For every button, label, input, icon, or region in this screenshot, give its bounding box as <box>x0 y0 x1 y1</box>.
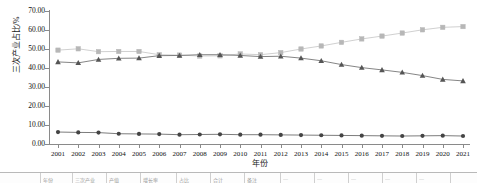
data-point-marker <box>177 133 181 137</box>
strip-cell: 三次产业 <box>75 176 104 183</box>
strip-column-divider <box>40 173 41 183</box>
data-point-marker <box>137 132 141 136</box>
strip-cell: 合计 <box>213 176 242 183</box>
strip-cell: — <box>317 176 346 181</box>
strip-cell: — <box>385 176 414 181</box>
data-point-marker <box>279 133 283 137</box>
strip-cell: 年份 <box>43 176 70 183</box>
strip-column-divider <box>176 173 177 183</box>
data-point-marker <box>117 49 121 53</box>
strip-column-divider <box>72 173 73 183</box>
data-point-marker <box>218 132 222 136</box>
data-point-marker <box>319 44 323 48</box>
strip-column-divider <box>280 173 281 183</box>
data-point-marker <box>360 37 364 41</box>
strip-cell: 产值 <box>109 176 138 183</box>
data-point-marker <box>117 132 121 136</box>
data-point-marker <box>76 130 80 134</box>
strip-column-divider <box>348 173 349 183</box>
data-point-marker <box>137 49 141 53</box>
series-circle <box>56 130 465 138</box>
plot-series-layer <box>0 0 477 183</box>
series-square <box>56 24 465 58</box>
data-point-marker <box>461 24 465 28</box>
data-point-marker <box>96 131 100 135</box>
strip-column-divider <box>382 173 383 183</box>
strip-column-divider <box>106 173 107 183</box>
data-point-marker <box>258 133 262 137</box>
data-point-marker <box>96 49 100 53</box>
data-point-marker <box>441 134 445 138</box>
data-point-marker <box>319 133 323 137</box>
data-point-marker <box>339 40 343 44</box>
data-point-marker <box>56 48 60 52</box>
data-point-marker <box>56 130 60 134</box>
data-point-marker <box>198 132 202 136</box>
data-point-marker <box>400 31 404 35</box>
bottom-table-strip: 年份三次产业产值增长率占比合计备注————— <box>0 172 477 183</box>
strip-cell: — <box>419 176 448 181</box>
data-point-marker <box>420 134 424 138</box>
strip-cell: — <box>351 176 380 181</box>
strip-cell: — <box>283 176 312 181</box>
data-point-marker <box>299 133 303 137</box>
strip-cell: 占比 <box>179 176 208 183</box>
strip-column-divider <box>244 173 245 183</box>
data-point-marker <box>339 133 343 137</box>
data-point-marker <box>400 134 404 138</box>
data-point-marker <box>157 132 161 136</box>
data-point-marker <box>461 134 465 138</box>
data-point-marker <box>380 34 384 38</box>
data-point-marker <box>238 133 242 137</box>
series-triangle <box>55 52 466 83</box>
data-point-marker <box>76 47 80 51</box>
strip-column-divider <box>450 173 451 183</box>
data-point-marker <box>299 47 303 51</box>
data-point-marker <box>420 28 424 32</box>
strip-column-divider <box>210 173 211 183</box>
data-point-marker <box>441 25 445 29</box>
strip-column-divider <box>314 173 315 183</box>
data-point-marker <box>380 134 384 138</box>
strip-cell: 备注 <box>247 176 278 183</box>
data-point-marker <box>360 134 364 138</box>
strip-cell: 增长率 <box>143 176 174 183</box>
strip-column-divider <box>140 173 141 183</box>
chart-figure: 三次产业占比/% 年份 70.0060.0050.0040.0030.0020.… <box>0 0 477 183</box>
strip-column-divider <box>416 173 417 183</box>
